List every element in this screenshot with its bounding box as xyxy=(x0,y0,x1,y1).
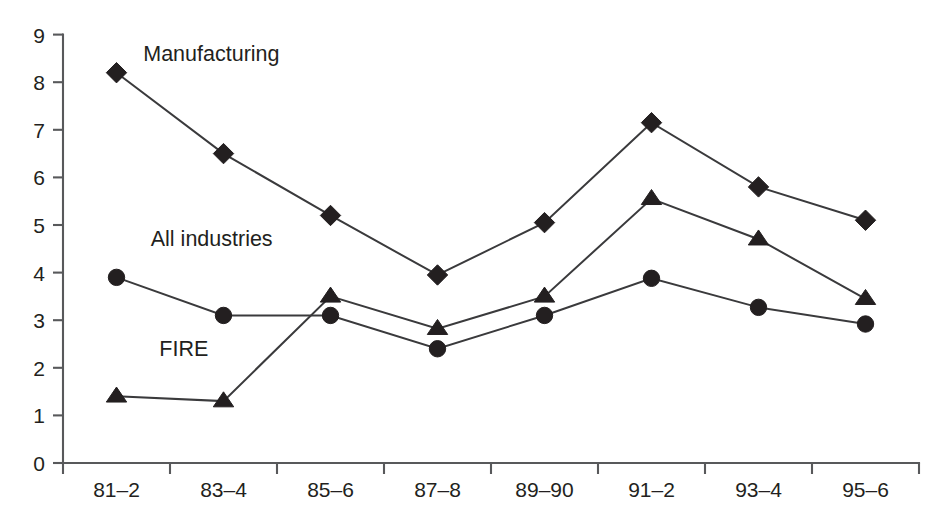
x-axis-tick-label: 93–4 xyxy=(735,478,782,501)
series-fire xyxy=(106,190,875,407)
y-axis-tick-label: 4 xyxy=(33,262,45,285)
x-axis-tick-label: 85–6 xyxy=(307,478,354,501)
x-axis-tick-label: 81–2 xyxy=(93,478,140,501)
y-axis-tick-label: 7 xyxy=(33,119,45,142)
x-axis: 81–283–485–687–889–9091–293–495–6 xyxy=(63,463,919,501)
y-axis-tick-label: 6 xyxy=(33,166,45,189)
y-axis-tick-label: 2 xyxy=(33,357,45,380)
data-point-triangle-marker xyxy=(855,289,875,304)
x-axis-tick-label: 95–6 xyxy=(842,478,889,501)
data-point-circle-marker xyxy=(750,299,766,315)
data-point-circle-marker xyxy=(215,307,231,323)
data-point-circle-marker xyxy=(429,341,445,357)
data-point-diamond-marker xyxy=(320,205,340,225)
line-chart: 0123456789 81–283–485–687–889–9091–293–4… xyxy=(0,0,936,526)
data-point-diamond-marker xyxy=(748,177,768,197)
data-point-circle-marker xyxy=(108,269,124,285)
series-label-all-industries: All industries xyxy=(151,227,273,251)
data-point-diamond-marker xyxy=(427,265,447,285)
y-axis: 0123456789 xyxy=(33,24,63,475)
y-axis-tick-label: 5 xyxy=(33,214,45,237)
y-axis-tick-label: 1 xyxy=(33,404,45,427)
data-point-diamond-marker xyxy=(855,210,875,230)
series-manufacturing xyxy=(106,62,875,285)
data-point-circle-marker xyxy=(643,270,659,286)
y-axis-tick-label: 9 xyxy=(33,24,45,47)
y-axis-tick-label: 8 xyxy=(33,71,45,94)
y-axis-tick-label: 0 xyxy=(33,452,45,475)
chart-container: 0123456789 81–283–485–687–889–9091–293–4… xyxy=(0,0,936,526)
x-axis-tick-label: 91–2 xyxy=(628,478,675,501)
data-point-triangle-marker xyxy=(641,190,661,205)
series-label-layer: ManufacturingAll industriesFIRE xyxy=(143,42,279,361)
x-axis-tick-label: 89–90 xyxy=(515,478,573,501)
data-point-circle-marker xyxy=(857,316,873,332)
data-point-triangle-marker xyxy=(106,387,126,402)
data-point-circle-marker xyxy=(536,307,552,323)
x-axis-tick-label: 87–8 xyxy=(414,478,461,501)
x-axis-tick-label: 83–4 xyxy=(200,478,247,501)
data-point-diamond-marker xyxy=(213,143,233,163)
data-point-circle-marker xyxy=(322,307,338,323)
y-axis-tick-label: 3 xyxy=(33,309,45,332)
series-label-manufacturing: Manufacturing xyxy=(143,42,279,66)
data-point-diamond-marker xyxy=(106,62,126,82)
series-label-fire: FIRE xyxy=(159,337,208,361)
data-point-triangle-marker xyxy=(320,287,340,302)
